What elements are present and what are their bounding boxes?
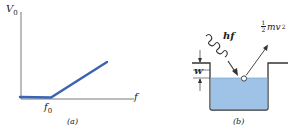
y-axis-label: V0: [6, 3, 18, 17]
electron-arrowhead: [263, 45, 268, 52]
w-arrowhead-bottom: [198, 78, 202, 83]
threshold-frequency-label: f0: [44, 101, 52, 115]
metal-fill: [211, 78, 268, 109]
caption-b: (b): [233, 117, 244, 126]
electron-icon: [241, 76, 246, 81]
caption-a: (a): [67, 117, 78, 126]
x-axis-label: f: [134, 91, 138, 102]
electron-path: [246, 48, 266, 76]
kinetic-energy-label: 1 2 mv2: [261, 20, 285, 33]
photon-energy-label: hf: [223, 30, 235, 41]
w-arrowhead-top: [198, 58, 202, 63]
stopping-voltage-line: [20, 62, 107, 98]
work-function-label: W: [194, 66, 203, 76]
